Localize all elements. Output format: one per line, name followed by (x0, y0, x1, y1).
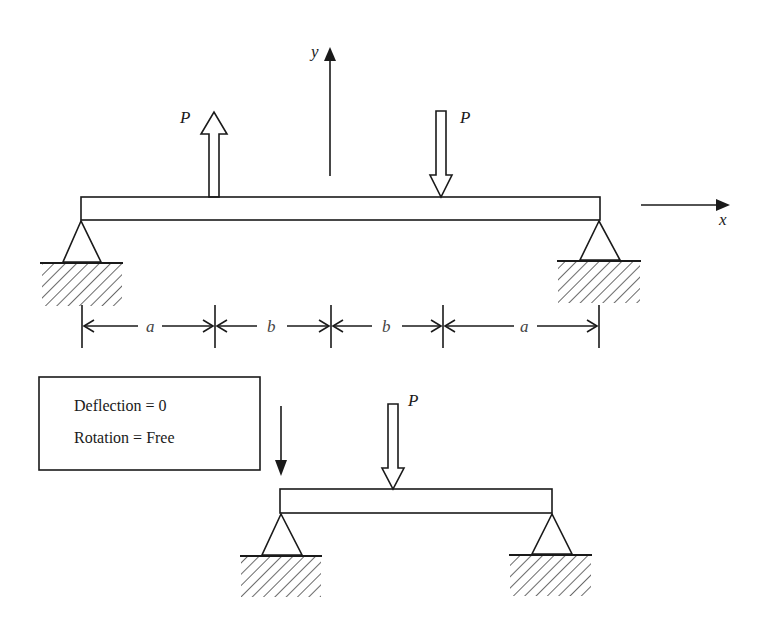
dimension-line: a b b a (82, 305, 599, 348)
boundary-deflection-text: Deflection = 0 (74, 397, 167, 414)
top-left-pin-support (40, 221, 123, 306)
bottom-beam-body (280, 489, 552, 513)
dimension-label-b-right: b (382, 317, 391, 336)
top-beam: P P (40, 108, 641, 306)
y-axis-arrowhead-icon (324, 47, 336, 61)
top-load-left-label: P (179, 108, 190, 127)
y-axis: y (309, 42, 336, 176)
dimension-label-a-left: a (146, 317, 155, 336)
top-load-left-up-arrow-icon (201, 112, 227, 197)
top-load-right-label: P (459, 108, 470, 127)
bottom-left-pin-support (240, 514, 322, 597)
boundary-condition-box: Deflection = 0 Rotation = Free (39, 377, 260, 470)
top-load-right-down-arrow-icon (430, 111, 452, 197)
ground-hatch-icon (510, 556, 591, 596)
ground-hatch-icon (241, 557, 321, 597)
transition-down-arrow-icon (275, 406, 287, 476)
x-axis: x (641, 199, 730, 229)
top-beam-body (81, 197, 600, 220)
boundary-rotation-text: Rotation = Free (74, 429, 175, 446)
bottom-load-down-arrow-icon (382, 404, 404, 489)
ground-hatch-icon (42, 264, 122, 306)
bottom-load-label: P (407, 391, 418, 410)
bottom-beam: P (240, 391, 592, 597)
dimension-label-a-right: a (520, 317, 529, 336)
beam-diagram: y x P P (0, 0, 771, 638)
ground-hatch-icon (558, 262, 640, 303)
bottom-right-pin-support (509, 514, 592, 596)
dimension-label-b-left: b (267, 317, 276, 336)
y-axis-label: y (309, 42, 319, 61)
x-axis-label: x (718, 210, 727, 229)
top-right-pin-support (557, 221, 641, 303)
